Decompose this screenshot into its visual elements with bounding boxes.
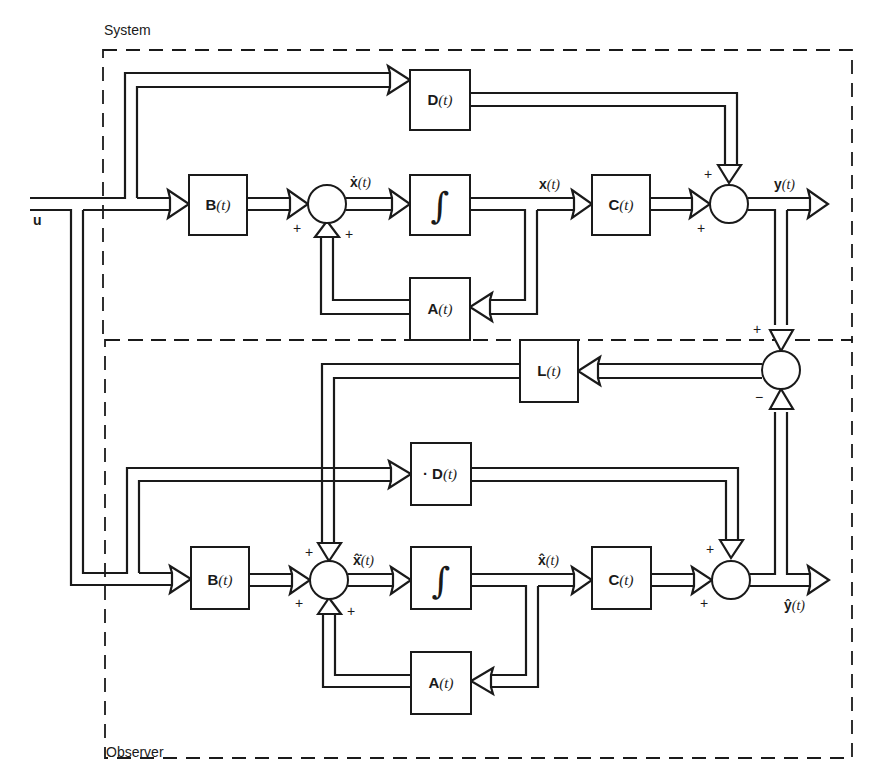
signal-xhat-label: x̂(t) xyxy=(538,552,559,569)
observer-summing-junction-2 xyxy=(712,561,750,599)
arrowhead xyxy=(388,66,410,94)
signal-arg: (t) xyxy=(358,175,371,190)
signal-arg: (t) xyxy=(782,177,795,192)
arrowhead xyxy=(572,190,592,218)
arrowhead xyxy=(390,190,410,218)
obs-d-to-sum2-pipe xyxy=(470,468,738,543)
u-to-observer-outer xyxy=(30,210,178,585)
arrowhead xyxy=(391,567,411,594)
obs-a-to-sum1-pipe xyxy=(323,612,411,687)
sign-plus: + xyxy=(753,321,761,337)
block-arg: (t) xyxy=(438,301,452,317)
observer-d-label: · D(t) xyxy=(423,465,457,483)
yhat-output-top xyxy=(750,412,815,574)
system-a-label: A(t) xyxy=(427,300,452,318)
observer-a-label: A(t) xyxy=(428,674,453,692)
block-name: B xyxy=(207,571,218,588)
b-to-sum-pipe xyxy=(247,198,296,210)
block-diagram-canvas xyxy=(0,0,873,775)
signal-name: ẋ xyxy=(350,174,358,190)
system-d-label: D(t) xyxy=(427,91,452,109)
arrowhead xyxy=(572,567,592,594)
sign-plus: + xyxy=(293,220,301,236)
sign-plus: + xyxy=(700,595,708,611)
observer-b-label: B(t) xyxy=(207,571,232,589)
signal-name: x̂ xyxy=(538,552,546,568)
c-to-sum2-pipe xyxy=(650,198,698,210)
observer-region-label: Observer xyxy=(106,744,164,760)
arrowhead xyxy=(170,566,191,593)
block-arg: (t) xyxy=(619,197,633,213)
obs-integrator-to-a-inner xyxy=(485,586,580,687)
signal-name: y xyxy=(774,176,782,192)
observer-c-label: C(t) xyxy=(608,571,633,589)
block-name: · D xyxy=(423,465,443,482)
block-arg: (t) xyxy=(218,572,232,588)
signal-y-label: y(t) xyxy=(774,176,795,193)
arrowhead xyxy=(288,190,308,218)
obs-b-to-sum1-pipe xyxy=(249,574,298,586)
system-region-label: System xyxy=(104,22,151,38)
integrator-to-a-outer xyxy=(470,210,525,300)
signal-yhat-label: ŷ(t) xyxy=(784,597,805,614)
arrowhead xyxy=(318,543,341,561)
sign-plus: + xyxy=(706,541,714,557)
arrowhead xyxy=(470,293,492,321)
input-u-label: u xyxy=(33,212,42,228)
arrowhead xyxy=(718,165,741,183)
block-arg: (t) xyxy=(438,92,452,108)
sign-plus: + xyxy=(697,220,705,236)
block-arg: (t) xyxy=(547,363,561,379)
sign-plus: + xyxy=(704,166,712,182)
sign-plus: + xyxy=(305,544,313,560)
system-c-label: C(t) xyxy=(608,196,633,214)
observer-summing-junction-1 xyxy=(310,561,348,599)
block-name: B xyxy=(205,196,216,213)
block-arg: (t) xyxy=(443,466,457,482)
obs-sum1-to-integrator-pipe xyxy=(348,574,399,586)
block-name: L xyxy=(537,362,546,379)
signal-xhatdot-label: x̂̇(t) xyxy=(353,552,374,569)
signal-xdot-label: ẋ(t) xyxy=(350,174,371,191)
system-b-label: B(t) xyxy=(205,196,230,214)
arrowhead xyxy=(770,389,793,409)
sum-to-integrator-pipe xyxy=(346,198,398,210)
block-arg: (t) xyxy=(216,197,230,213)
sign-plus: + xyxy=(345,226,353,242)
arrowhead xyxy=(290,567,310,594)
arrowhead xyxy=(168,190,189,218)
sign-minus: − xyxy=(755,389,763,405)
block-arg: (t) xyxy=(619,572,633,588)
signal-arg: (t) xyxy=(546,553,559,568)
observer-integral-symbol: ∫ xyxy=(432,560,451,601)
signal-x-label: x(t) xyxy=(539,176,560,193)
obs-c-to-sum2-pipe xyxy=(651,574,700,586)
diff-to-l-pipe xyxy=(592,364,762,378)
u-to-observer-inner xyxy=(83,210,398,573)
system-summing-junction-2 xyxy=(710,185,748,223)
arrowhead xyxy=(720,540,743,558)
arrowhead xyxy=(471,668,493,694)
block-name: C xyxy=(608,571,619,588)
arrowhead xyxy=(690,190,710,218)
signal-name: ŷ xyxy=(784,597,792,613)
block-name: D xyxy=(427,91,438,108)
block-arg: (t) xyxy=(439,675,453,691)
signal-arg: (t) xyxy=(361,553,374,568)
y-output-arrowhead xyxy=(808,190,828,218)
a-to-sum-pipe xyxy=(321,235,410,314)
observer-difference-junction xyxy=(762,351,800,389)
signal-name: x̂̇ xyxy=(353,552,361,568)
signal-name: x xyxy=(539,176,547,192)
d-to-sum2-pipe xyxy=(470,93,737,170)
system-integral-symbol: ∫ xyxy=(431,185,450,226)
block-name: A xyxy=(427,300,438,317)
signal-arg: (t) xyxy=(547,177,560,192)
arrowhead xyxy=(318,598,341,614)
signal-arg: (t) xyxy=(792,598,805,613)
arrowhead xyxy=(389,461,411,488)
obs-integrator-to-a-outer xyxy=(470,586,526,675)
arrowhead xyxy=(578,357,600,385)
y-output-bottom xyxy=(748,210,815,325)
sign-plus: + xyxy=(347,603,355,619)
